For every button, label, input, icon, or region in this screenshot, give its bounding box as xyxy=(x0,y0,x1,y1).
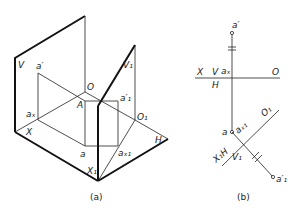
h-plane-edge xyxy=(98,139,168,181)
a-prime-A-line xyxy=(38,73,85,101)
label-O: O xyxy=(272,67,279,77)
label-a-prime: a′ xyxy=(232,20,240,30)
label-O1: O₁ xyxy=(137,112,148,122)
label-ax1: aₓ₁ xyxy=(233,119,250,135)
label-a1-prime: a′₁ xyxy=(120,93,132,103)
projection-diagram: V a′ O A a′₁ V₁ aₓ O₁ X a aₓ₁ H X₁ (a) a… xyxy=(0,0,300,212)
label-H: H xyxy=(155,135,162,145)
label-X: X xyxy=(25,127,33,137)
figure-a-pictorial: V a′ O A a′₁ V₁ aₓ O₁ X a aₓ₁ H X₁ (a) xyxy=(15,16,168,202)
label-O1: O₁ xyxy=(259,104,274,119)
label-X: X xyxy=(196,67,204,77)
label-ax: aₓ xyxy=(221,66,231,76)
caption-b: (b) xyxy=(237,192,250,202)
label-H: H xyxy=(212,80,219,90)
label-O: O xyxy=(87,82,94,92)
label-a: a xyxy=(80,149,86,159)
label-a: a xyxy=(222,127,228,137)
figure-b-orthographic: a′ X V aₓ O H a aₓ₁ O₁ X₁H V₁ a′₁ (b) xyxy=(195,20,288,202)
label-V: V xyxy=(212,67,219,77)
label-ax1: aₓ₁ xyxy=(118,148,132,158)
label-V1: V₁ xyxy=(232,152,242,162)
caption-a: (a) xyxy=(90,192,103,202)
x1-axis xyxy=(222,110,279,166)
label-a1-prime: a′₁ xyxy=(276,174,288,184)
label-X1H: X₁H xyxy=(210,146,230,165)
o1-h-line xyxy=(135,120,168,139)
ax-a-line xyxy=(38,120,85,146)
point-a1-prime xyxy=(271,175,274,178)
label-A: A xyxy=(76,100,83,110)
label-X1: X₁ xyxy=(86,166,97,176)
x-axis-edge xyxy=(15,132,98,181)
label-V1: V₁ xyxy=(123,60,133,70)
label-ax: aₓ xyxy=(26,109,36,119)
label-V: V xyxy=(18,60,25,70)
point-a-prime xyxy=(230,31,233,34)
label-a-prime: a′ xyxy=(36,61,44,71)
